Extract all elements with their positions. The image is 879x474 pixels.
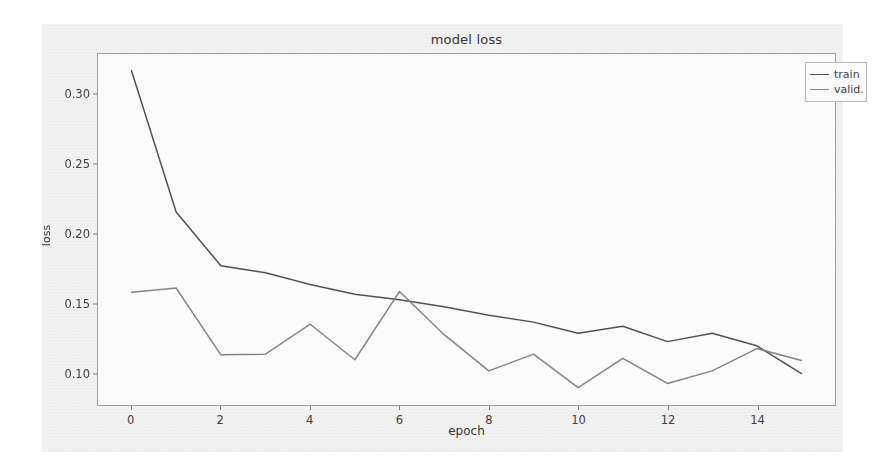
y-tick-label: 0.25 <box>44 157 90 171</box>
y-tick-label: 0.20 <box>44 227 90 241</box>
line-series-train <box>131 71 801 374</box>
legend-label: train <box>834 68 860 81</box>
x-tick-mark <box>668 406 669 410</box>
x-tick-label: 6 <box>396 413 403 427</box>
legend-label: valid. <box>834 83 864 96</box>
x-tick-mark <box>578 406 579 410</box>
x-tick-label: 0 <box>127 413 134 427</box>
legend-item-train[interactable]: train <box>810 67 861 82</box>
x-tick-label: 12 <box>661 413 676 427</box>
chart-title: model loss <box>97 32 836 47</box>
plot-area <box>97 53 836 406</box>
x-tick-mark <box>758 406 759 410</box>
chart-legend: trainvalid. <box>805 62 867 102</box>
legend-line-swatch <box>810 74 829 75</box>
x-tick-mark <box>399 406 400 410</box>
x-tick-mark <box>220 406 221 410</box>
x-tick-label: 2 <box>216 413 223 427</box>
x-axis-label: epoch <box>97 424 836 438</box>
y-tick-label: 0.30 <box>44 87 90 101</box>
x-tick-mark <box>310 406 311 410</box>
legend-item-valid[interactable]: valid. <box>810 82 861 97</box>
legend-line-swatch <box>810 89 829 90</box>
plot-lines <box>98 54 835 405</box>
x-tick-label: 8 <box>485 413 492 427</box>
y-tick-label: 0.15 <box>44 297 90 311</box>
x-tick-label: 4 <box>306 413 313 427</box>
x-tick-label: 14 <box>750 413 765 427</box>
line-series-valid <box>131 288 801 388</box>
figure-panel: model loss loss epoch 0.100.150.200.250.… <box>42 24 843 452</box>
x-tick-mark <box>131 406 132 410</box>
x-tick-label: 10 <box>571 413 586 427</box>
x-tick-mark <box>489 406 490 410</box>
y-tick-label: 0.10 <box>44 367 90 381</box>
